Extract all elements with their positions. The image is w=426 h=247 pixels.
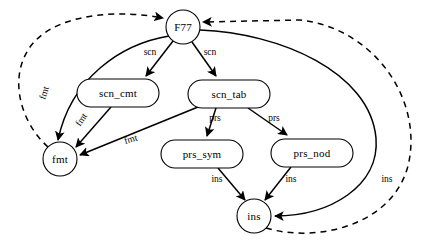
edge-label-prs-nod-ins: ins: [285, 174, 296, 184]
edge-label-f77-scn-tab: scn: [204, 47, 217, 57]
node-prs-nod[interactable]: prs_nod: [271, 139, 353, 167]
node-fmt-label: fmt: [52, 153, 68, 165]
node-prs-sym-label: prs_sym: [183, 148, 222, 160]
edge-label-scn-tab-prs-nod: prs: [268, 113, 280, 123]
node-scn-cmt-label: scn_cmt: [99, 87, 137, 99]
edge-f77-to-ins: [200, 30, 376, 216]
node-scn-cmt[interactable]: scn_cmt: [77, 79, 159, 107]
node-f77[interactable]: F77: [166, 10, 200, 44]
node-fmt[interactable]: fmt: [43, 142, 77, 176]
edge-label-f77-ins: ins: [381, 174, 392, 184]
nodes-layer: F77 scn_cmt scn_tab fmt prs_sym prs_nod: [43, 10, 353, 233]
edge-label-prs-sym-ins: ins: [211, 174, 222, 184]
node-prs-sym[interactable]: prs_sym: [161, 140, 243, 168]
node-ins-label: ins: [247, 210, 260, 222]
edge-ins-to-f77: [203, 20, 411, 233]
edge-label-f77-scn-cmt: scn: [144, 47, 157, 57]
node-ins[interactable]: ins: [237, 199, 271, 233]
call-graph-svg: F77 scn_cmt scn_tab fmt prs_sym prs_nod: [0, 0, 426, 247]
node-prs-nod-label: prs_nod: [294, 147, 331, 159]
node-scn-tab-label: scn_tab: [211, 88, 246, 100]
edge-label-scn-cmt-fmt: fmt: [73, 111, 89, 128]
edge-label-scn-tab-fmt: fmt: [123, 132, 139, 146]
diagram-canvas: F77 scn_cmt scn_tab fmt prs_sym prs_nod: [0, 0, 426, 247]
edge-label-scn-tab-prs-sym: prs: [209, 113, 221, 123]
node-f77-label: F77: [174, 21, 192, 33]
edge-label-f77-fmt: fmt: [37, 85, 51, 101]
node-scn-tab[interactable]: scn_tab: [188, 80, 270, 108]
